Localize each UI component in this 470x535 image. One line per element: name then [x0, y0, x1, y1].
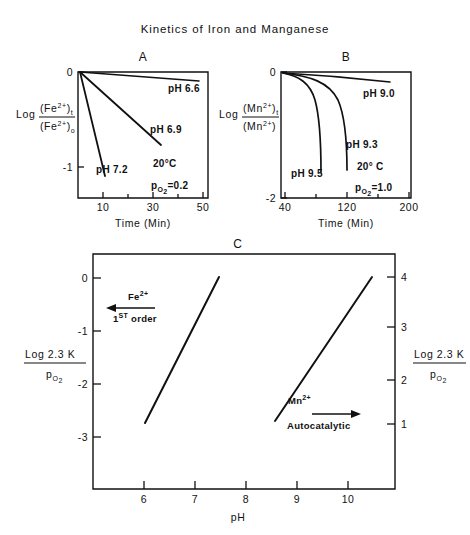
panel-c-fe-species: Fe [128, 291, 140, 302]
panel-b-ytick-0: 0 [270, 66, 276, 78]
panel-b-series-ph93 [283, 73, 347, 170]
panel-b-condition-pressure: pO2=1.0 [355, 182, 392, 197]
panel-a-x-axis-title: Time (Min) [115, 217, 171, 229]
panel-a-letter: A [139, 50, 148, 64]
figure-title: Kinetics of Iron and Manganese [141, 23, 330, 35]
panel-b-y-axis-title: Log (Mn2+)t (Mn2+) [219, 102, 279, 132]
panel-a-ylabel-num: (Fe [40, 102, 58, 114]
panel-a-series-ph66 [80, 72, 199, 81]
svg-text:pO2=1.0: pO2=1.0 [355, 182, 392, 197]
svg-text:pO2: pO2 [46, 368, 63, 384]
panel-a-cond-p-value: =0.2 [167, 180, 188, 191]
svg-text:pO2=0.2: pO2=0.2 [151, 180, 188, 195]
panel-c-right-ylabel-den-sub2: 2 [443, 377, 448, 384]
panel-a: A 10 30 50 0 -1 pH 6.6 pH 6.9 pH 7.2 20 [16, 50, 209, 229]
panel-b-cond-p-value: =1.0 [371, 182, 392, 193]
panel-c-fe-arrow-left-icon [106, 304, 155, 312]
panel-c-x-ticks [144, 481, 348, 489]
panel-b-condition-temperature: 20° C [357, 161, 384, 172]
panel-c-right-ytick-3: 3 [401, 321, 407, 333]
panel-b-xtick-120: 120 [337, 201, 356, 213]
panel-b-ylabel-log: Log [219, 108, 238, 120]
panel-b-ytick-neg2: -2 [266, 192, 276, 204]
panel-c-left-ytick-neg2: -2 [78, 378, 88, 390]
panel-b-label-ph93: pH 9.3 [346, 139, 378, 150]
panel-b-ylabel-num-sub: t [276, 109, 279, 116]
panel-a-ytick-neg1: -1 [63, 161, 73, 173]
panel-a-ylabel-den-sup: 2+ [58, 120, 67, 127]
panel-c-right-ytick-4: 4 [401, 271, 407, 283]
panel-c-left-ylabel-den-sub2: 2 [59, 377, 64, 384]
panel-a-ylabel-den-sub: o [71, 127, 76, 134]
panel-b-letter: B [342, 50, 351, 64]
svg-text:(Mn2+): (Mn2+) [243, 120, 276, 132]
panel-a-series-ph69 [80, 72, 161, 145]
panel-c-fe-order-rest: order [128, 313, 157, 324]
panel-c-left-ytick-neg1: -1 [78, 325, 88, 337]
panel-c-annotation-fe: Fe2+ 1ST order [106, 290, 157, 324]
panel-c-frame [93, 254, 395, 489]
panel-c-left-y-ticks [93, 278, 101, 437]
panel-c-fe-order-sup: ST [119, 312, 129, 319]
panel-c-mn-order: Autocatalytic [287, 420, 351, 431]
panel-c-right-ytick-2: 2 [401, 374, 407, 386]
svg-text:(Mn2+)t: (Mn2+)t [243, 102, 279, 116]
panel-c-x-axis-title: pH [231, 511, 246, 523]
panel-b-label-ph95: pH 9.5 [291, 168, 323, 179]
panel-b-ylabel-den-sup: 2+ [263, 120, 272, 127]
panel-a-label-ph69: pH 6.9 [150, 124, 182, 135]
panel-c-right-ytick-1: 1 [401, 418, 407, 430]
panel-c-xtick-8: 8 [243, 493, 249, 505]
panel-c-xtick-6: 6 [141, 493, 147, 505]
panel-b-y-ticks [281, 72, 287, 198]
panel-a-xtick-30: 30 [147, 201, 160, 213]
panel-c-right-axis-title: Log 2.3 K pO2 [413, 348, 466, 384]
panel-a-xtick-50: 50 [197, 201, 210, 213]
svg-text:1ST order: 1ST order [113, 312, 157, 324]
figure-container: Kinetics of Iron and Manganese A 10 30 5… [0, 0, 470, 535]
panel-a-condition-pressure: pO2=0.2 [151, 180, 188, 195]
svg-text:(Fe2+)t: (Fe2+)t [40, 102, 73, 116]
panel-c-fe-species-sup: 2+ [140, 290, 149, 297]
panel-c-mn-arrow-right-icon [312, 410, 361, 418]
svg-text:Mn2+: Mn2+ [288, 394, 311, 406]
panel-a-ylabel-log: Log [16, 108, 35, 120]
svg-text:pO2: pO2 [430, 368, 447, 384]
panel-b: B 40 120 200 0 -2 pH 9.0 pH 9.3 pH 9.5 2… [219, 50, 419, 229]
panel-b-series-ph95 [283, 73, 321, 172]
svg-text:Fe2+: Fe2+ [128, 290, 148, 302]
panel-c-annotation-mn: Mn2+ Autocatalytic [287, 394, 361, 431]
panel-a-ylabel-num-sub: t [71, 109, 74, 116]
panel-b-xtick-200: 200 [399, 201, 418, 213]
panel-a-condition-temperature: 20°C [153, 158, 177, 169]
panel-b-label-ph90: pH 9.0 [363, 88, 395, 99]
svg-text:(Fe2+)o: (Fe2+)o [40, 120, 75, 134]
panel-b-ylabel-num-sup: 2+ [263, 102, 272, 109]
panel-c-xtick-10: 10 [342, 493, 355, 505]
panel-c-mn-species: Mn [288, 395, 302, 406]
panel-a-label-ph66: pH 6.6 [168, 83, 200, 94]
panel-c-right-ylabel-num: Log 2.3 K [414, 348, 464, 360]
panel-a-series-ph72 [80, 72, 105, 176]
panel-c-series-fe [145, 277, 219, 423]
panel-a-y-axis-title: Log (Fe2+)t (Fe2+)o [16, 102, 75, 134]
panel-c-mn-species-sup: 2+ [302, 394, 311, 401]
panel-b-xtick-40: 40 [279, 201, 292, 213]
kinetics-figure-svg: Kinetics of Iron and Manganese A 10 30 5… [0, 0, 470, 535]
panel-c-xtick-7: 7 [192, 493, 198, 505]
panel-b-x-axis-title: Time (Min) [318, 217, 374, 229]
panel-b-series-ph90 [283, 73, 390, 82]
panel-c-left-ytick-0: 0 [82, 272, 88, 284]
panel-a-x-ticks [103, 192, 203, 198]
panel-c-right-y-ticks [387, 277, 395, 424]
panel-c-letter: C [233, 237, 242, 251]
panel-c: C 0 -1 -2 -3 4 3 2 1 [24, 237, 466, 523]
panel-c-xtick-9: 9 [294, 493, 300, 505]
panel-a-ytick-0: 0 [67, 66, 73, 78]
panel-b-ylabel-den: (Mn [243, 120, 263, 132]
panel-b-ylabel-num: (Mn [243, 102, 263, 114]
panel-c-left-ytick-neg3: -3 [78, 431, 88, 443]
panel-a-ylabel-num-sup: 2+ [58, 102, 67, 109]
panel-a-label-ph72: pH 7.2 [96, 164, 128, 175]
panel-a-xtick-10: 10 [97, 201, 110, 213]
